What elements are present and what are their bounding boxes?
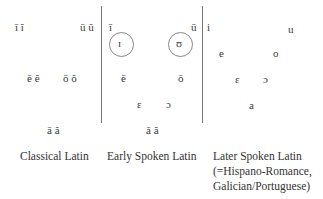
vowel-high-back: ū	[191, 22, 197, 33]
vowel-open-mid-front: ɛ	[137, 99, 142, 110]
column-caption-later-spoken-latin-line-3: Galician/Portuguese)	[213, 180, 310, 193]
column-caption-later-spoken-latin-line-2: (=Hispano-Romance,	[213, 165, 312, 178]
vowel-near-high-front: ɪ	[118, 38, 121, 49]
column-divider-2	[202, 6, 203, 123]
vowel-mid-front: e	[219, 48, 224, 59]
vowel-mid-front: ē ĕ	[27, 73, 40, 84]
vowel-mid-back: ō	[178, 73, 184, 84]
column-caption-early-spoken-latin: Early Spoken Latin	[107, 150, 196, 163]
vowel-low: ā ă	[146, 125, 159, 136]
vowel-open-mid-back: ɔ	[263, 74, 268, 85]
vowel-mid-back: ō ŏ	[63, 73, 77, 84]
vowel-open-mid-back: ɔ	[166, 99, 171, 110]
vowel-mid-front: ē	[121, 73, 126, 84]
vowel-high-front: ī ĭ	[15, 22, 24, 33]
column-caption-classical-latin: Classical Latin	[20, 150, 89, 163]
vowel-mid-back: o	[273, 48, 279, 59]
vowel-high-front: i	[207, 22, 210, 33]
vowel-open-mid-front: ɛ	[235, 74, 240, 85]
vowel-high-back: u	[288, 24, 294, 35]
vowel-low: ā ă	[47, 125, 60, 136]
column-divider-1	[101, 6, 102, 123]
vowel-high-front: ī	[109, 22, 112, 33]
vowel-low: a	[249, 100, 254, 111]
circle-near-high-front	[109, 32, 134, 57]
column-caption-later-spoken-latin-line-1: Later Spoken Latin	[213, 150, 302, 163]
vowel-high-back: ū ŭ	[80, 22, 94, 33]
vowel-near-high-back: ʊ	[176, 38, 182, 49]
